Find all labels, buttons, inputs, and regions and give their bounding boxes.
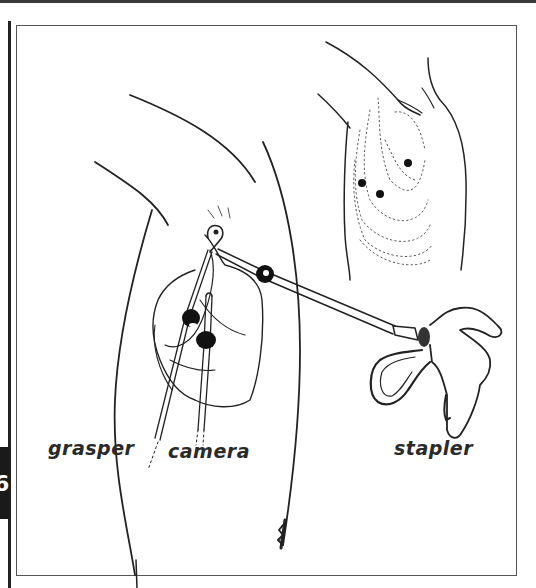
torso-center-edge (263, 142, 300, 545)
stapler-collar (418, 327, 430, 347)
inset-arm-fold (398, 100, 422, 113)
stapler-trigger-inner (380, 357, 415, 396)
camera-port (196, 331, 216, 349)
organ-hatch (208, 206, 230, 218)
inset-shoulder (428, 58, 466, 270)
label-stapler: stapler (394, 437, 473, 459)
label-grasper: grasper (48, 437, 134, 459)
arm-contour-lower (95, 162, 168, 225)
torso-bottom-line (136, 560, 137, 588)
grasper-jaw-hole (214, 230, 219, 235)
stapler-nozzle (393, 326, 418, 340)
grasper-port-hole (189, 323, 197, 327)
grasper-shaft-dashed (148, 442, 158, 470)
stapler-trigger-ring (371, 350, 430, 404)
stapler-shaft-top (218, 249, 395, 326)
label-camera: camera (168, 440, 250, 462)
stapler-port-hole (263, 270, 269, 276)
arm-contour-upper (130, 95, 255, 182)
torso-left-edge (115, 210, 152, 575)
stapler-body (430, 308, 501, 438)
inset-underarm (318, 94, 350, 128)
inset-shoulder-fold (422, 88, 434, 108)
camera-shaft-cap (206, 293, 212, 296)
surgical-illustration (0, 0, 536, 588)
stapler-shaft-bottom (216, 254, 393, 334)
inset-torso-left (344, 122, 350, 280)
